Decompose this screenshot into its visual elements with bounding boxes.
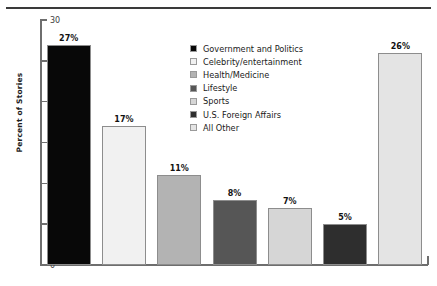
bar[interactable] (213, 200, 257, 265)
legend-item-label: All Other (203, 123, 239, 133)
bar-group[interactable]: 5% (323, 20, 367, 265)
bar-value-label: 27% (47, 34, 91, 43)
bar[interactable] (268, 208, 312, 265)
top-divider-rule (6, 7, 431, 9)
legend-item[interactable]: Lifestyle (190, 82, 303, 95)
bar[interactable] (102, 126, 146, 265)
legend-swatch-icon (190, 58, 197, 65)
legend-swatch-icon (190, 124, 197, 131)
bar-group[interactable]: 27% (47, 20, 91, 265)
bar-value-label: 17% (102, 115, 146, 124)
legend-swatch-icon (190, 45, 197, 52)
legend-item-label: Lifestyle (203, 83, 237, 93)
legend-item[interactable]: U.S. Foreign Affairs (190, 108, 303, 121)
legend-swatch-icon (190, 98, 197, 105)
legend-item[interactable]: All Other (190, 121, 303, 134)
bar[interactable] (47, 45, 91, 266)
chart-legend: Government and PoliticsCelebrity/enterta… (186, 40, 307, 136)
legend-item-label: Sports (203, 96, 229, 106)
legend-item-label: Government and Politics (203, 44, 303, 54)
y-axis-title: Percent of Stories (15, 58, 24, 168)
legend-item-label: U.S. Foreign Affairs (203, 110, 281, 120)
bar-chart-figure: Percent of Stories 051015202530 27%17%11… (0, 0, 437, 286)
legend-item[interactable]: Sports (190, 95, 303, 108)
legend-item-label: Celebrity/entertainment (203, 57, 302, 67)
bar[interactable] (323, 224, 367, 265)
bar-group[interactable]: 26% (378, 20, 422, 265)
bar-group[interactable]: 17% (102, 20, 146, 265)
bar-value-label: 5% (323, 213, 367, 222)
bar[interactable] (157, 175, 201, 265)
legend-item-label: Health/Medicine (203, 70, 269, 80)
legend-item[interactable]: Celebrity/entertainment (190, 55, 303, 68)
bar-value-label: 26% (378, 42, 422, 51)
bar[interactable] (378, 53, 422, 265)
legend-item[interactable]: Health/Medicine (190, 68, 303, 81)
bar-value-label: 11% (157, 164, 201, 173)
bar-value-label: 8% (213, 189, 257, 198)
bar-value-label: 7% (268, 197, 312, 206)
legend-swatch-icon (190, 111, 197, 118)
legend-swatch-icon (190, 85, 197, 92)
legend-item[interactable]: Government and Politics (190, 42, 303, 55)
legend-swatch-icon (190, 71, 197, 78)
